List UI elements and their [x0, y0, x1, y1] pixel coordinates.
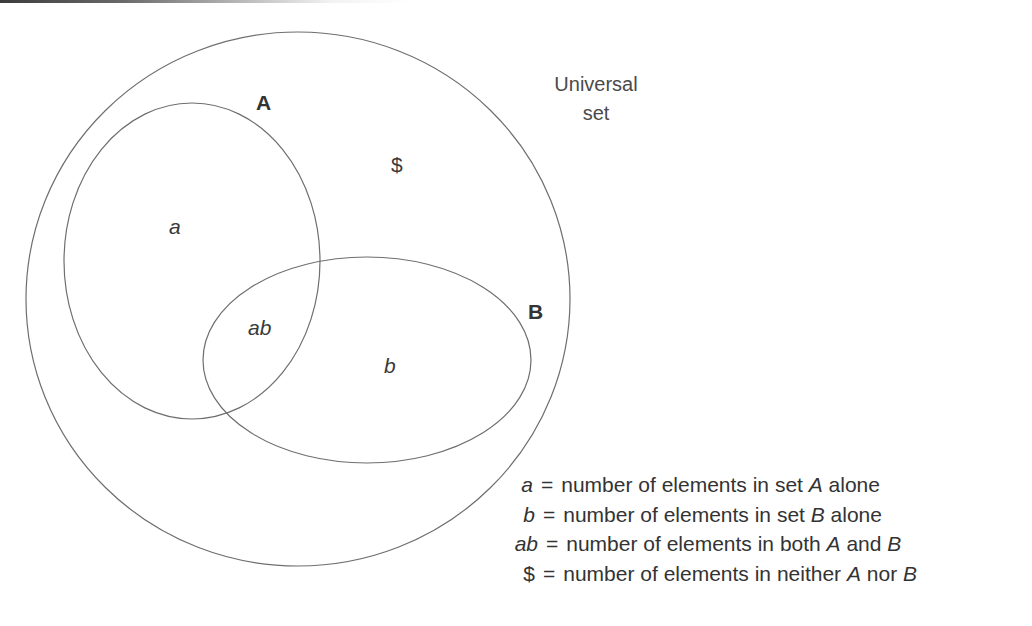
set-b-ellipse: [203, 257, 531, 463]
legend-text: number of elements in set: [563, 503, 810, 526]
legend: a=number of elements in set A alone b=nu…: [505, 470, 1025, 588]
legend-symbol: $: [505, 559, 535, 589]
legend-symbol: b: [505, 500, 535, 530]
legend-symbol: a: [505, 470, 533, 500]
set-a-label: A: [256, 91, 271, 114]
legend-equals: =: [533, 473, 561, 496]
legend-text: number of elements in both: [566, 532, 826, 555]
legend-text: nor: [861, 562, 903, 585]
legend-row-a: a=number of elements in set A alone: [505, 470, 1025, 500]
legend-text: and: [841, 532, 888, 555]
region-b-only-label: b: [384, 354, 396, 377]
legend-var: A: [827, 532, 841, 555]
legend-text: alone: [825, 503, 882, 526]
legend-text: number of elements in neither: [563, 562, 847, 585]
legend-var: A: [809, 473, 823, 496]
legend-equals: =: [535, 503, 563, 526]
legend-row-b: b=number of elements in set B alone: [505, 500, 1025, 530]
universal-set-label-line1: Universal: [554, 73, 637, 95]
region-neither-label: $: [391, 153, 403, 176]
region-a-only-label: a: [169, 215, 181, 238]
legend-equals: =: [538, 532, 566, 555]
legend-row-ab: ab=number of elements in both A and B: [505, 529, 1025, 559]
legend-var: B: [903, 562, 917, 585]
legend-equals: =: [535, 562, 563, 585]
legend-text: alone: [823, 473, 880, 496]
set-b-label: B: [528, 300, 543, 323]
legend-text: number of elements in set: [561, 473, 808, 496]
region-both-label: ab: [248, 316, 272, 339]
universal-set-circle: [26, 32, 570, 566]
legend-symbol: ab: [505, 529, 538, 559]
legend-var: B: [811, 503, 825, 526]
legend-var: B: [887, 532, 901, 555]
universal-set-label-line2: set: [583, 102, 610, 124]
legend-row-neither: $=number of elements in neither A nor B: [505, 559, 1025, 589]
set-a-ellipse: [64, 103, 320, 419]
legend-var: A: [847, 562, 861, 585]
